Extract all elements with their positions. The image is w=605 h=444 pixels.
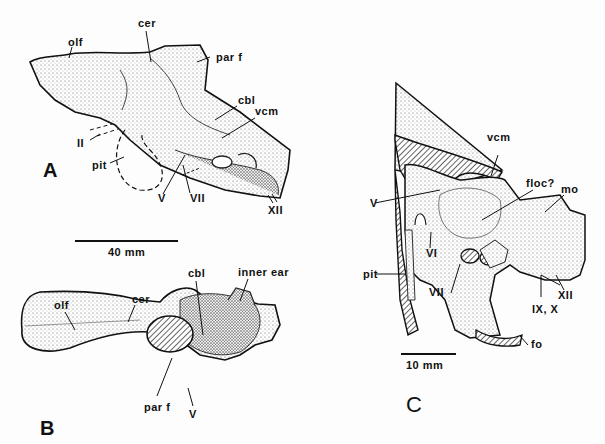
- label-b-cbl: cbl: [188, 268, 205, 279]
- label-a-vcm: vcm: [255, 106, 279, 117]
- label-a-pit: pit: [92, 160, 107, 171]
- label-c-VI: VI: [426, 248, 437, 259]
- label-c-IX-X: IX, X: [532, 304, 558, 315]
- label-c-floc: floc?: [526, 178, 555, 189]
- label-c-pit: pit: [363, 269, 378, 280]
- label-a-cer: cer: [138, 18, 156, 29]
- label-c-mo: mo: [561, 184, 579, 195]
- label-b-V: V: [189, 409, 197, 420]
- label-b-par-f: par f: [144, 402, 170, 413]
- figure-drawings: [0, 0, 605, 444]
- label-a-par-f: par f: [216, 52, 242, 63]
- label-a-II: II: [77, 138, 84, 149]
- label-c-vcm: vcm: [487, 132, 511, 143]
- label-c-XII: XII: [558, 290, 573, 301]
- scale-bar-label-a: 40 mm: [108, 247, 145, 258]
- scale-bar-label-c: 10 mm: [406, 360, 443, 371]
- label-a-olf: olf: [68, 37, 83, 48]
- panel-a-drawing: [30, 31, 290, 241]
- label-c-fo: fo: [531, 339, 542, 350]
- label-c-VII: VII: [429, 287, 444, 298]
- label-a-VII: VII: [190, 193, 205, 204]
- label-c-V: V: [370, 198, 378, 209]
- label-a-V: V: [158, 193, 166, 204]
- label-b-olf: olf: [54, 300, 69, 311]
- panel-label-a: A: [43, 160, 57, 180]
- label-a-cbl: cbl: [238, 95, 255, 106]
- label-b-cer: cer: [132, 294, 150, 305]
- figure: cer olf par f cbl vcm II pit V VII XII A…: [0, 0, 605, 444]
- panel-label-c: C: [406, 394, 422, 416]
- panel-label-b: B: [40, 418, 54, 438]
- label-a-XII: XII: [268, 205, 283, 216]
- label-b-inner-ear: inner ear: [238, 267, 289, 278]
